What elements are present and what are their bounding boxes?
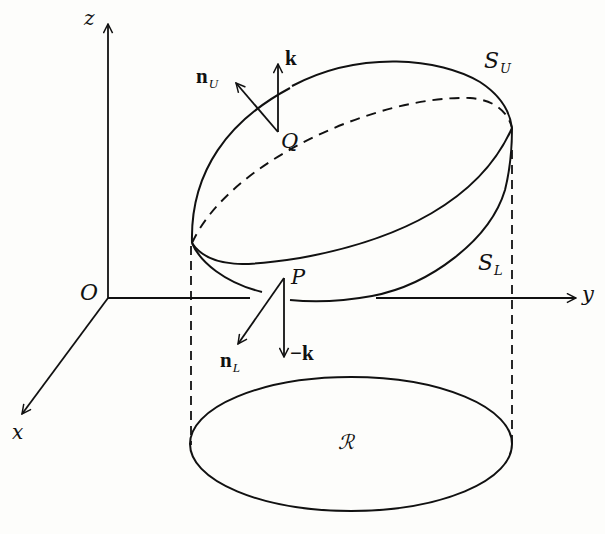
nl-main: n [220, 348, 232, 372]
sl-sub: L [494, 263, 503, 278]
lower-surface-label: SL [478, 252, 503, 274]
su-sub: U [500, 61, 511, 76]
upper-surface-label: SU [484, 50, 511, 72]
nu-vector-label: nU [196, 66, 218, 87]
point-p-label: P [291, 267, 305, 288]
x-axis [22, 298, 108, 414]
diagram-canvas: z x y O SU SL Q P k nU −k nL ℛ [0, 0, 605, 534]
vectors-at-p [238, 278, 284, 357]
y-axis-label: y [582, 284, 594, 305]
nl-vector-label: nL [220, 350, 240, 371]
nl-sub: L [233, 360, 240, 375]
lower-surface-sl [192, 128, 512, 301]
nu-sub: U [209, 76, 218, 91]
x-axis-label: x [12, 422, 23, 442]
neg-k-vector-label: −k [290, 343, 314, 364]
point-q-label: Q [281, 131, 298, 152]
su-main: S [484, 48, 499, 73]
nu-main: n [196, 64, 208, 88]
k-vector-label: k [285, 48, 297, 69]
boundary-curve-back [192, 98, 512, 243]
z-axis-label: z [84, 8, 95, 28]
boundary-curve-front [192, 128, 512, 264]
region-r-label: ℛ [338, 432, 354, 452]
origin-label: O [80, 282, 98, 304]
sl-main: S [478, 250, 493, 275]
